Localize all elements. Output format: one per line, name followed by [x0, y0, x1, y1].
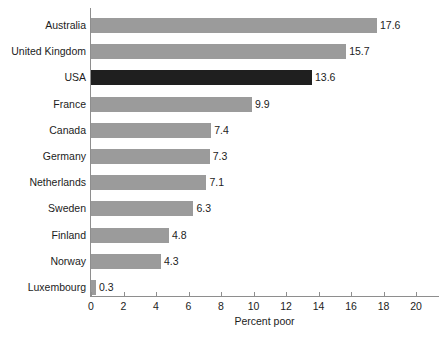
x-axis-title: Percent poor	[90, 315, 439, 327]
value-label-sweden: 6.3	[196, 200, 211, 216]
bar-france	[91, 97, 252, 112]
value-label-luxembourg: 0.3	[99, 279, 114, 295]
bar-germany	[91, 149, 210, 164]
x-tick-label-20: 20	[396, 299, 436, 313]
x-tick-4	[156, 292, 157, 297]
category-label-united-kingdom: United Kingdom	[0, 43, 86, 59]
bar-finland	[91, 228, 169, 243]
value-label-canada: 7.4	[214, 122, 229, 138]
x-tick-20	[416, 292, 417, 297]
value-label-australia: 17.6	[380, 17, 400, 33]
category-label-germany: Germany	[0, 148, 86, 164]
bar-australia	[91, 18, 377, 33]
x-tick-2	[124, 292, 125, 297]
bar-row: Finland4.8	[0, 228, 443, 243]
value-label-germany: 7.3	[213, 148, 228, 164]
category-label-netherlands: Netherlands	[0, 174, 86, 190]
plot-area: Australia17.6United Kingdom15.7USA13.6Fr…	[0, 0, 443, 340]
x-axis-line	[90, 296, 439, 297]
value-label-norway: 4.3	[164, 253, 179, 269]
value-label-netherlands: 7.1	[209, 174, 224, 190]
x-tick-18	[384, 292, 385, 297]
x-tick-16	[351, 292, 352, 297]
x-tick-8	[221, 292, 222, 297]
bar-row: Sweden6.3	[0, 201, 443, 216]
bar-netherlands	[91, 175, 206, 190]
category-label-canada: Canada	[0, 122, 86, 138]
category-label-finland: Finland	[0, 227, 86, 243]
bar-row: France9.9	[0, 97, 443, 112]
value-label-usa: 13.6	[315, 69, 335, 85]
category-label-usa: USA	[0, 69, 86, 85]
x-tick-0	[91, 292, 92, 297]
bar-row: Netherlands7.1	[0, 175, 443, 190]
x-tick-12	[286, 292, 287, 297]
bar-sweden	[91, 201, 193, 216]
category-label-australia: Australia	[0, 17, 86, 33]
bar-united-kingdom	[91, 44, 346, 59]
category-label-sweden: Sweden	[0, 200, 86, 216]
bar-row: Norway4.3	[0, 254, 443, 269]
bar-usa	[91, 70, 312, 85]
bar-row: USA13.6	[0, 70, 443, 85]
bar-row: Germany7.3	[0, 149, 443, 164]
x-tick-10	[254, 292, 255, 297]
value-label-finland: 4.8	[172, 227, 187, 243]
bar-row: Australia17.6	[0, 18, 443, 33]
bar-row: Canada7.4	[0, 123, 443, 138]
bar-norway	[91, 254, 161, 269]
category-label-france: France	[0, 96, 86, 112]
x-tick-6	[189, 292, 190, 297]
value-label-united-kingdom: 15.7	[349, 43, 369, 59]
x-tick-14	[319, 292, 320, 297]
value-label-france: 9.9	[255, 96, 270, 112]
category-label-luxembourg: Luxembourg	[0, 279, 86, 295]
category-label-norway: Norway	[0, 253, 86, 269]
bar-row: United Kingdom15.7	[0, 44, 443, 59]
bar-chart: Australia17.6United Kingdom15.7USA13.6Fr…	[0, 0, 443, 340]
bar-canada	[91, 123, 211, 138]
